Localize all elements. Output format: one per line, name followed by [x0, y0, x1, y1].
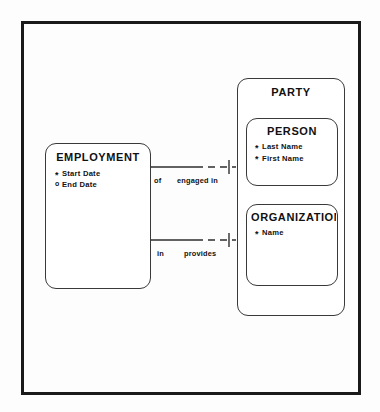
entity-organization-attributes: *Name [255, 227, 333, 239]
entity-organization[interactable]: ORGANIZATION *Name [246, 204, 338, 286]
attribute-name: End Date [62, 180, 97, 189]
attribute-marker-mandatory: * [255, 143, 262, 154]
entity-person-attributes: *Last Name *First Name [255, 141, 333, 164]
attribute-name: Start Date [62, 169, 100, 178]
attribute-end-date: oEnd Date [55, 180, 146, 191]
entity-employment-attributes: *Start Date oEnd Date [55, 168, 146, 190]
attribute-name: First Name [262, 154, 304, 163]
attribute-marker-mandatory: * [255, 229, 262, 240]
relationship-label-engaged-in: engaged in [177, 176, 218, 185]
entity-organization-title: ORGANIZATION [251, 211, 336, 223]
relationship-label-of: of [154, 176, 161, 185]
attribute-last-name: *Last Name [255, 141, 333, 153]
erd-diagram-canvas: of engaged in in provides EMPLOYMENT *St… [0, 0, 380, 412]
entity-party-title: PARTY [238, 86, 344, 98]
entity-employment-title: EMPLOYMENT [46, 151, 150, 163]
entity-employment[interactable]: EMPLOYMENT *Start Date oEnd Date [45, 143, 151, 289]
attribute-name: Last Name [262, 142, 303, 151]
relationship-label-in: in [157, 249, 164, 258]
attribute-start-date: *Start Date [55, 168, 146, 180]
entity-person-title: PERSON [247, 125, 337, 137]
attribute-first-name: *First Name [255, 153, 333, 165]
attribute-name: *Name [255, 227, 333, 239]
attribute-name: Name [262, 228, 284, 237]
attribute-marker-optional: o [55, 179, 62, 190]
entity-person[interactable]: PERSON *Last Name *First Name [246, 118, 338, 186]
attribute-marker-mandatory: * [255, 154, 262, 165]
relationship-label-provides: provides [184, 249, 216, 258]
entity-party[interactable]: PARTY PERSON *Last Name *First Name ORGA… [237, 78, 345, 316]
